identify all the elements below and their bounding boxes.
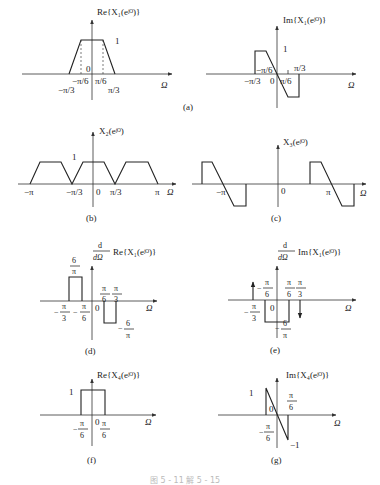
peak-label: 1 [72, 152, 77, 162]
svg-text:−: − [73, 425, 78, 434]
omega-label: Ω [145, 417, 152, 427]
svg-text:−: − [244, 308, 249, 317]
omega-label: Ω [146, 303, 153, 313]
tick-pi-6-num: π [287, 278, 291, 287]
tick-pi-6-num: π [289, 391, 293, 400]
tick-pi-3: π/3 [108, 85, 120, 95]
omega-label: Ω [334, 418, 341, 428]
tick-pi-3-den: 3 [114, 295, 118, 304]
tick-pi-6: π/6 [280, 76, 292, 86]
panel-title: Im{X₁(eʲᴼ)} [283, 15, 326, 25]
panel-title: Re{X₁(eʲᴼ)} [113, 247, 156, 257]
svg-text:−: − [257, 284, 262, 293]
peak-label: 1 [115, 36, 120, 46]
origin-label: 0 [86, 64, 91, 74]
omega-label: Ω [167, 187, 174, 197]
tick-pi-3-num: π [114, 284, 118, 293]
tick-neg-pi-6-den: 6 [82, 314, 86, 323]
svg-text:−: − [259, 428, 264, 437]
caption-a: (a) [183, 102, 193, 112]
neg-value-num: 6 [283, 319, 287, 328]
panel-f: Re{X₄(eʲᴼ)} 1 0 − π 6 π 6 Ω (f) [40, 370, 156, 465]
peak-label: 1 [249, 388, 254, 398]
tick-pi-6-num: π [102, 419, 106, 428]
origin-label: 0 [270, 303, 275, 313]
panel-title: Re{X₄(eʲᴼ)} [97, 370, 140, 380]
tick-pi-3-num: π [298, 278, 302, 287]
panel-title: Im{X₁(eʲᴼ)} [298, 247, 341, 257]
tick-neg-pi: −π [24, 187, 34, 197]
tick-neg-pi-6-den: 6 [80, 431, 84, 440]
tick-neg-pi-3-num: π [252, 302, 256, 311]
tick-pi-6-den: 6 [102, 295, 106, 304]
panel-a-imag-part: Im{X₁(eʲᴼ)} 1 0 −π/3 −π/6 π/6 π/3 Ω [206, 15, 356, 108]
pos-value-den: π [72, 267, 76, 276]
omega-label: Ω [348, 80, 355, 90]
positive-pulse [69, 277, 82, 301]
tick-neg-pi-3: −π/3 [58, 85, 75, 95]
tick-pi-6-num: π [102, 284, 106, 293]
panel-c: X₃(eʲᴼ) 0 −π π Ω (c) [192, 137, 367, 223]
svg-text:−: − [54, 308, 59, 317]
svg-text:−: − [73, 308, 78, 317]
omega-label: Ω [345, 303, 352, 313]
tick-neg-pi-6-num: π [266, 422, 270, 431]
tick-neg-pi: −π [216, 187, 226, 197]
omega-label: Ω [161, 80, 168, 90]
negative-pulse [104, 301, 116, 323]
caption-f: (f) [87, 455, 96, 465]
tick-pi-6-den: 6 [289, 403, 293, 412]
tick-neg-pi-3-den: 3 [62, 314, 66, 323]
figure-caption: 图 5 - 11 解 5 - 15 [150, 475, 220, 485]
tick-neg-pi-6-num: π [82, 302, 86, 311]
tick-pi-6-den: 6 [102, 431, 106, 440]
tick-neg-pi-6-num: π [80, 419, 84, 428]
neg-value-den: π [126, 331, 130, 340]
neg-value-sign: − [118, 324, 123, 333]
panel-title: X₃(eʲᴼ) [283, 137, 308, 147]
tick-pi: π [155, 187, 160, 197]
panel-title: Im{X₄(eʲᴼ)} [286, 370, 329, 380]
tick-neg-pi-3: −π/3 [244, 76, 261, 86]
tick-neg-pi-6: −π/6 [256, 65, 273, 75]
origin-label: 0 [95, 303, 100, 313]
origin-label: 0 [95, 417, 100, 427]
pos-value-num: 6 [72, 256, 76, 265]
origin-label: 0 [270, 76, 275, 86]
panel-b: X₂(eʲᴼ) 1 0 −π −π/3 π/3 π Ω (b) [18, 126, 176, 223]
caption-g: (g) [271, 455, 282, 465]
deriv-denominator: dΩ [93, 253, 103, 262]
tick-neg-pi-3-den: 3 [252, 314, 256, 323]
trough-label: −1 [290, 440, 300, 450]
tick-neg-pi-6-num: π [265, 278, 269, 287]
peak-label: 1 [283, 44, 288, 54]
tick-pi: π [326, 187, 331, 197]
tick-pi-6: π/6 [95, 76, 107, 86]
panel-title: X₂(eʲᴼ) [99, 126, 124, 136]
panel-a-real-part: Re{X₁(eʲᴼ)} 1 0 −π/3 −π/6 π/6 π/3 Ω [22, 7, 172, 100]
deriv-denominator: dΩ [278, 253, 288, 262]
neg-value-sign: − [275, 324, 280, 333]
tick-neg-pi-6-den: 6 [266, 434, 270, 443]
tick-pi-3-den: 3 [298, 290, 302, 299]
panel-d: d dΩ Re{X₁(eʲᴼ)} 6 π − 6 π 0 − π 3 − π 6… [40, 241, 157, 356]
deriv-numerator: d [283, 241, 287, 250]
neg-value-den: π [283, 331, 287, 340]
panel-e: d dΩ Im{X₁(eʲᴼ)} 0 − 6 π − π 3 − π 6 π 6… [228, 241, 356, 355]
tick-neg-pi-6: −π/6 [72, 76, 89, 86]
omega-label: Ω [360, 188, 367, 198]
rect-pulse [81, 390, 105, 415]
caption-e: (e) [270, 345, 280, 355]
origin-label: 0 [281, 186, 286, 196]
panel-g: Im{X₄(eʲᴼ)} 1 −1 0 − π 6 π 6 Ω (g) [218, 370, 341, 465]
tick-neg-pi-3-num: π [62, 302, 66, 311]
origin-label: 0 [96, 187, 101, 197]
deriv-numerator: d [98, 241, 102, 250]
tick-neg-pi-3: −π/3 [66, 187, 83, 197]
tick-pi-6-den: 6 [287, 290, 291, 299]
caption-b: (b) [86, 213, 97, 223]
peak-label: 1 [69, 387, 74, 397]
tick-neg-pi-6-den: 6 [265, 290, 269, 299]
tick-pi-3: π/3 [110, 187, 122, 197]
periodic-trapezoid-curve [30, 162, 158, 184]
